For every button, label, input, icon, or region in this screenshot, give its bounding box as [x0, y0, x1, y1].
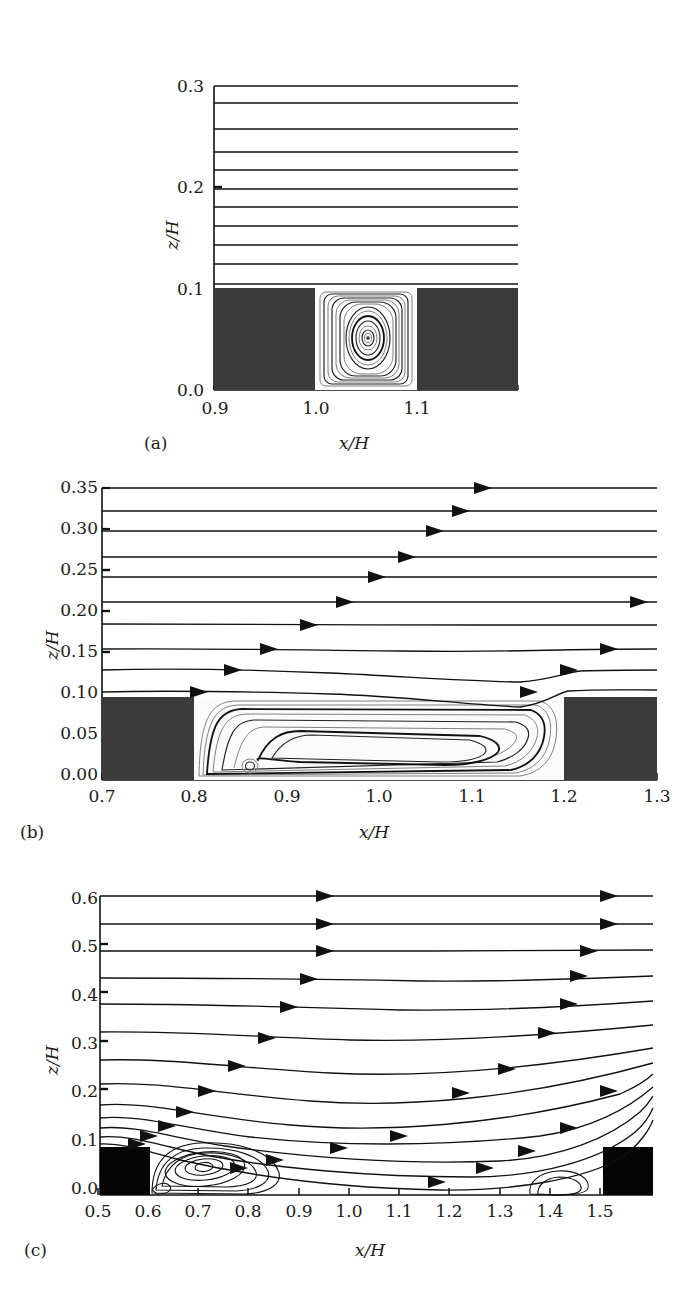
- panel-a-plot: [0, 0, 691, 460]
- panel-b-plot: [0, 470, 691, 870]
- panel-a: z/H 0.0 0.1 0.2 0.3 0.9 1.0 1.1 x/H (a): [0, 0, 691, 460]
- panel-b-streamlines: [102, 488, 657, 707]
- panel-b-flow-arrows: [190, 482, 648, 698]
- panel-b: z/H 0.00 0.05 0.10 0.15 0.20 0.25 0.30 0…: [0, 470, 691, 870]
- panel-c-plot: [0, 880, 691, 1314]
- figure-root: z/H 0.0 0.1 0.2 0.3 0.9 1.0 1.1 x/H (a): [0, 0, 691, 1314]
- panel-a-streamlines: [214, 86, 518, 284]
- panel-c: z/H 0.0 0.1 0.2 0.3 0.4 0.5 0.6 0.5 0.6 …: [0, 880, 691, 1314]
